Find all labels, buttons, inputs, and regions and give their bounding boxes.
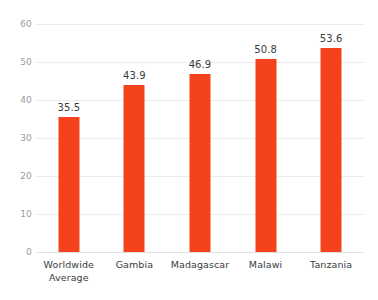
bar-value-label-gambia: 43.9 — [123, 71, 146, 81]
bar-slot-gambia: 43.9 — [102, 24, 168, 252]
x-tick-label-line-1: Worldwide — [44, 259, 94, 270]
bar-malawi[interactable] — [255, 59, 276, 252]
x-tick-label-madagascar: Madagascar — [167, 258, 233, 271]
bar-series: 35.5 43.9 46.9 50.8 53.6 — [36, 24, 364, 252]
x-tick-label-line-1: Tanzania — [310, 259, 352, 270]
x-tick-label-worldwide-average: Worldwide Average — [36, 258, 102, 284]
y-tick-label-10: 10 — [4, 210, 32, 219]
y-tick-label-60: 60 — [4, 20, 32, 29]
bar-tanzania[interactable] — [321, 48, 342, 252]
x-tick-label-gambia: Gambia — [102, 258, 168, 271]
x-tick-label-line-1: Gambia — [116, 259, 154, 270]
gridline-0 — [36, 252, 364, 253]
x-tick-label-tanzania: Tanzania — [298, 258, 364, 271]
bar-value-label-malawi: 50.8 — [254, 45, 277, 55]
x-axis: Worldwide Average Gambia Madagascar Mala… — [36, 258, 364, 298]
bar-chart: 60 50 40 30 20 10 0 35.5 43.9 46.9 50.8 … — [0, 0, 378, 300]
bar-slot-tanzania: 53.6 — [298, 24, 364, 252]
bar-gambia[interactable] — [124, 85, 145, 252]
bar-slot-malawi: 50.8 — [233, 24, 299, 252]
bar-value-label-tanzania: 53.6 — [320, 34, 343, 44]
bar-slot-worldwide-average: 35.5 — [36, 24, 102, 252]
bar-slot-madagascar: 46.9 — [167, 24, 233, 252]
bar-value-label-worldwide-average: 35.5 — [57, 103, 80, 113]
bar-worldwide-average[interactable] — [58, 117, 79, 252]
y-tick-label-20: 20 — [4, 172, 32, 181]
bar-value-label-madagascar: 46.9 — [189, 60, 212, 70]
y-tick-label-50: 50 — [4, 58, 32, 67]
y-tick-label-40: 40 — [4, 96, 32, 105]
x-tick-label-line-1: Madagascar — [171, 259, 230, 270]
y-tick-label-30: 30 — [4, 134, 32, 143]
x-tick-label-line-1: Malawi — [249, 259, 283, 270]
x-tick-label-malawi: Malawi — [233, 258, 299, 271]
bar-madagascar[interactable] — [189, 74, 210, 252]
x-tick-label-line-2: Average — [36, 271, 102, 284]
y-tick-label-0: 0 — [4, 248, 32, 257]
